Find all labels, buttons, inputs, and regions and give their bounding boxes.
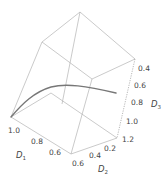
svg-text:0.6: 0.6 [72,159,84,168]
svg-text:0.8: 0.8 [31,137,43,146]
d3-axis-label: D3 [151,99,162,110]
svg-text:0.4: 0.4 [89,151,101,160]
bounding-box [11,12,135,154]
svg-text:1.0: 1.0 [126,117,138,126]
svg-text:1.2: 1.2 [122,135,134,144]
svg-text:0.6: 0.6 [49,148,61,157]
svg-text:0.4: 0.4 [138,64,150,73]
svg-text:1.0: 1.0 [8,126,20,135]
svg-text:0.6: 0.6 [134,81,146,90]
svg-text:0.8: 0.8 [131,98,143,107]
d2-axis-label: D2 [98,164,108,175]
3d-plot: 1.0 0.8 0.6 D1 0.6 0.4 0.2 D2 0.4 0.6 0.… [0,0,166,182]
d2-ticks: 0.6 0.4 0.2 [72,144,116,168]
d3-ticks: 0.4 0.6 0.8 1.0 1.2 [122,64,150,144]
d1-axis-label: D1 [16,150,26,161]
svg-text:0.2: 0.2 [104,144,116,153]
